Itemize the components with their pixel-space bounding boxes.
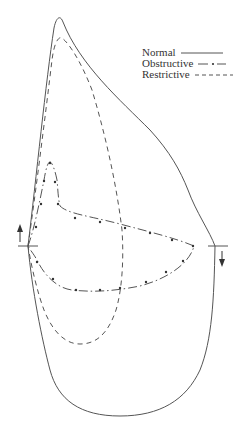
obstructive-curve	[28, 162, 194, 291]
dashed-line-swatch	[193, 72, 233, 78]
flow-volume-diagram: Normal Obstructive Restrictive	[0, 0, 241, 427]
legend-item-restrictive: Restrictive	[142, 69, 241, 80]
expiration-down-arrow	[219, 251, 225, 267]
dash-dot-line-swatch	[196, 61, 226, 67]
legend: Normal Obstructive Restrictive	[142, 47, 241, 80]
legend-label-restrictive: Restrictive	[142, 69, 190, 80]
obstructive-dots	[35, 162, 194, 291]
inspiration-up-arrow	[17, 224, 23, 242]
solid-line-swatch	[179, 50, 223, 56]
